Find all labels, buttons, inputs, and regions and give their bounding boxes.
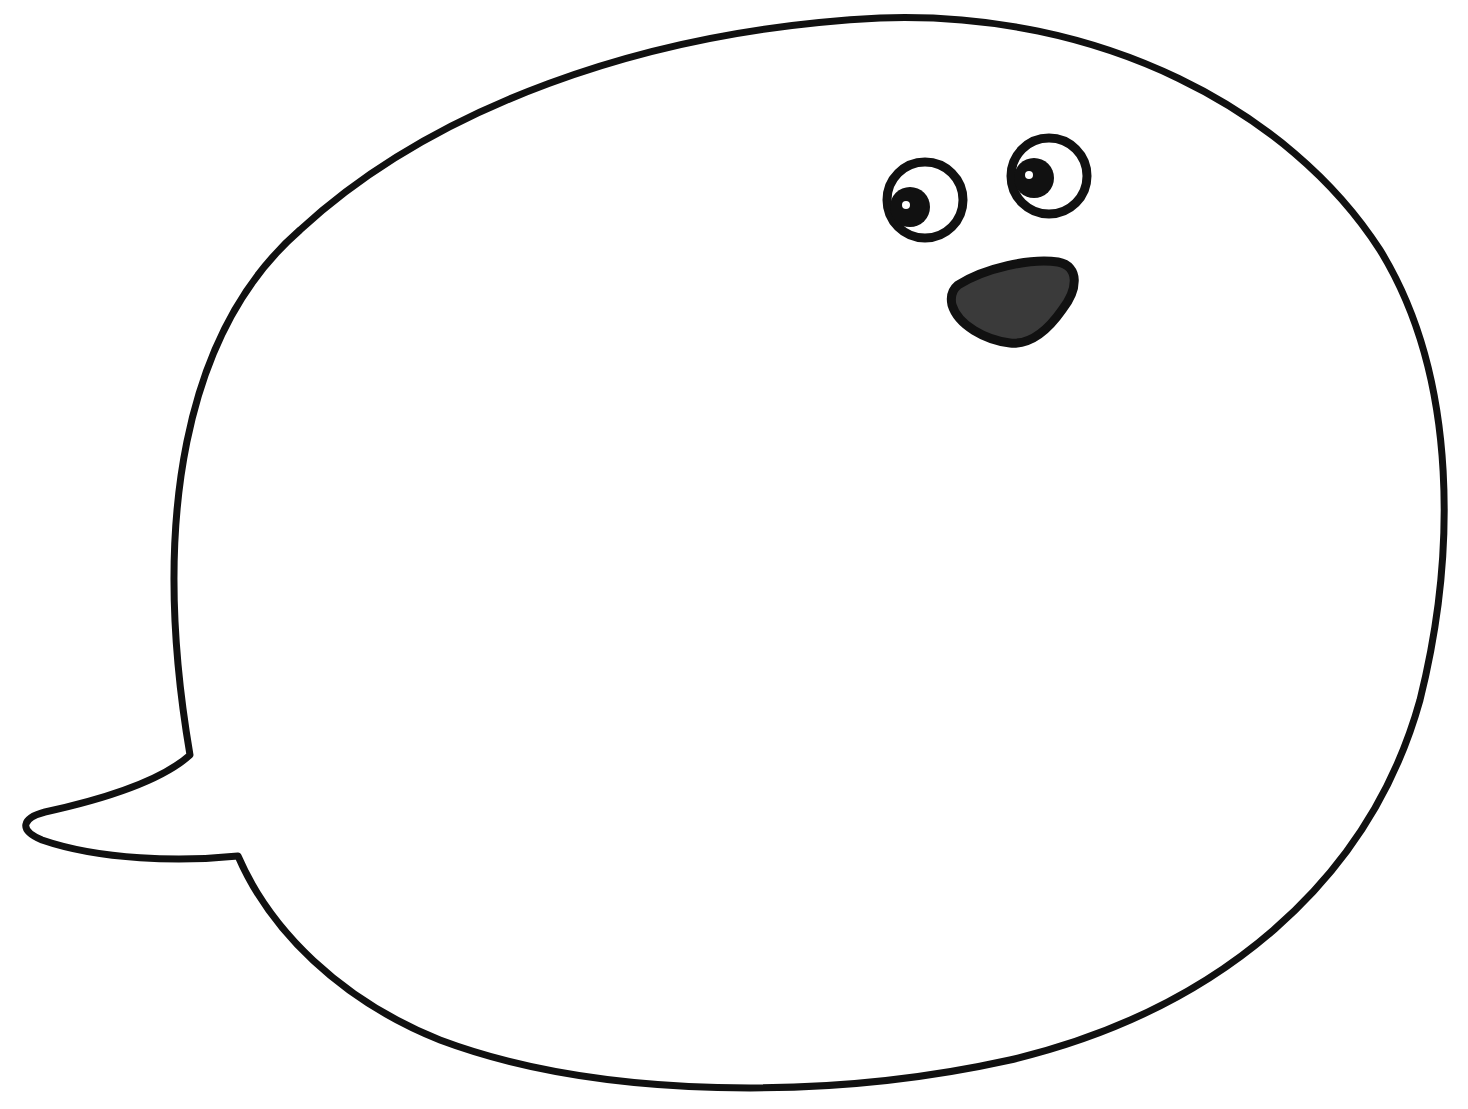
speech-bubble-illustration <box>0 0 1468 1109</box>
left-eye <box>887 162 963 238</box>
speech-bubble-outline <box>26 18 1444 1088</box>
right-eye <box>1011 138 1087 214</box>
